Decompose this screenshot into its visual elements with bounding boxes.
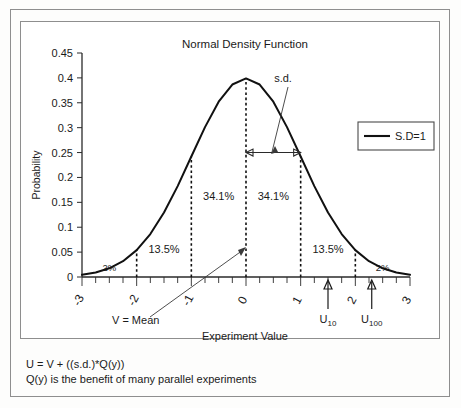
y-tick-label: 0.15 <box>52 196 73 208</box>
y-tick-label: 0.45 <box>52 47 73 59</box>
y-tick-label: 0 <box>67 271 73 283</box>
mean-leader-arrowhead <box>238 247 246 256</box>
y-tick-label: 0.3 <box>58 122 73 134</box>
x-axis-minor-ticks <box>82 277 410 286</box>
caption-line-1: U = V + ((s.d.)*Q(y)) <box>26 358 124 370</box>
svg-text:U100: U100 <box>361 313 383 328</box>
legend-label: S.D=1 <box>395 130 426 142</box>
x-tick-label: 0 <box>235 294 251 307</box>
band-percentage-label: 13.5% <box>312 243 343 255</box>
x-tick-label: -3 <box>70 292 88 308</box>
u10-label: U <box>320 313 328 325</box>
band-percentage-label: 13.5% <box>148 243 179 255</box>
u10-subscript: 10 <box>328 319 337 328</box>
chart-title: Normal Density Function <box>182 38 308 50</box>
mean-annotation-label: V = Mean <box>112 314 159 326</box>
u100-subscript: 100 <box>369 319 383 328</box>
sd-leader-line <box>272 87 288 152</box>
y-axis-label: Probability <box>30 150 42 200</box>
figure-caption: U = V + ((s.d.)*Q(y)) Q(y) is the benefi… <box>26 357 426 386</box>
band-percentage-label: 34.1% <box>258 190 289 202</box>
chart-legend[interactable]: S.D=1 <box>358 122 434 150</box>
y-tick-label: 0.2 <box>58 171 73 183</box>
mean-leader-line <box>150 250 243 317</box>
x-tick-label: 1 <box>289 294 305 307</box>
x-tick-label: 2 <box>344 294 360 307</box>
figure-container: Normal Density Function Probability Expe… <box>0 0 461 408</box>
y-tick-label: 0.35 <box>52 97 73 109</box>
u10-marker: U10 <box>320 280 337 328</box>
svg-text:U10: U10 <box>320 313 337 328</box>
sd-annotation-label: s.d. <box>274 72 292 84</box>
x-axis-label: Experiment Value <box>202 330 288 342</box>
y-tick-label: 0.05 <box>52 246 73 258</box>
x-axis-tick-labels: -3-2-10123 <box>70 292 415 308</box>
x-tick-label: -2 <box>124 292 142 308</box>
u100-marker: U100 <box>361 280 383 328</box>
x-tick-label: 3 <box>399 294 415 307</box>
y-tick-label: 0.4 <box>58 72 73 84</box>
caption-line-2: Q(y) is the benefit of many parallel exp… <box>26 373 257 385</box>
y-tick-label: 0.1 <box>58 221 73 233</box>
band-percentage-label: 34.1% <box>203 190 234 202</box>
y-axis-ticks: 00.050.10.150.20.250.30.350.40.45 <box>52 47 82 283</box>
normal-density-chart: Normal Density Function Probability Expe… <box>0 0 461 408</box>
u100-label: U <box>361 313 369 325</box>
y-tick-label: 0.25 <box>52 147 73 159</box>
